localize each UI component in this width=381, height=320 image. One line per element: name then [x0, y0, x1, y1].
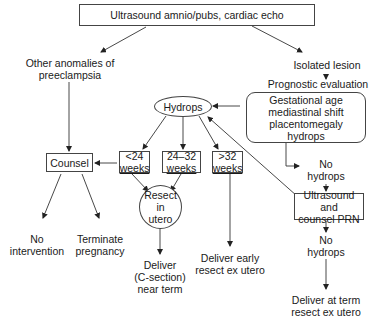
counsel-label: Counsel — [50, 157, 89, 169]
24-32-weeks-box: 24–32 weeks — [162, 151, 201, 173]
lt24-weeks-box: <24 weeks — [119, 151, 150, 173]
gestational-criteria-box: Gestational age mediastinal shift placen… — [246, 92, 366, 143]
terminate-pregnancy-label: Terminate pregnancy — [72, 233, 128, 257]
no-intervention-label: No intervention — [6, 233, 68, 257]
deliver-csection-label: Deliver (C-section) near term — [130, 259, 190, 295]
no-hydrops-label-1: No hydrops — [300, 158, 352, 182]
counsel-box: Counsel — [46, 153, 93, 172]
resect-in-utero-circle: Resect in utero — [139, 185, 182, 229]
hydrops-ellipse: Hydrops — [154, 96, 212, 117]
ultrasound-amnio-label: Ultrasound amnio/pubs, cardiac echo — [110, 9, 283, 21]
no-hydrops-label-2: No hydrops — [300, 234, 352, 258]
deliver-early-label: Deliver early resect ex utero — [194, 252, 266, 276]
gt32-weeks-box: >32 weeks — [212, 151, 243, 173]
ultrasound-counsel-prn-box: Ultrasound and counsel PRN — [294, 193, 364, 220]
isolated-lesion-label: Isolated lesion — [274, 59, 380, 71]
ultrasound-amnio-box: Ultrasound amnio/pubs, cardiac echo — [79, 4, 315, 26]
deliver-at-term-label: Deliver at term resect ex utero — [288, 294, 364, 318]
prognostic-evaluation-label: Prognostic evaluation — [258, 78, 378, 90]
hydrops-label: Hydrops — [163, 101, 202, 113]
other-anomalies-label: Other anomalies of preeclampsia — [24, 57, 116, 81]
